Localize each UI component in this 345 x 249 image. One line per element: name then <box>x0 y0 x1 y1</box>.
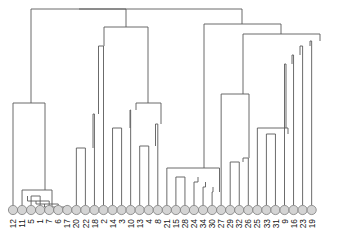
leaf-node-6[interactable] <box>54 205 63 214</box>
leaf-node-18[interactable] <box>90 205 99 214</box>
dendrogram-link-m33 <box>79 9 242 24</box>
dendrogram-canvas: 1211517617202218214310134821152824343027… <box>0 0 345 249</box>
leaf-node-10[interactable] <box>126 205 135 214</box>
leaf-node-15[interactable] <box>171 205 180 214</box>
dendrogram-link-m29 <box>300 46 303 205</box>
dendrogram-link-m22 <box>230 162 239 205</box>
dendrogram-link-m27 <box>285 64 287 205</box>
leaf-node-20[interactable] <box>72 205 81 214</box>
dendrogram-link-m24 <box>221 94 249 205</box>
dendrogram-link-m32 <box>204 24 281 168</box>
dendrogram-link-m23 <box>243 158 248 205</box>
leaf-node-30[interactable] <box>208 205 217 214</box>
leaf-node-19[interactable] <box>307 205 316 214</box>
dendrogram-link-m31 <box>243 34 320 94</box>
leaf-node-29[interactable] <box>226 205 235 214</box>
leaf-node-34[interactable] <box>198 205 207 214</box>
leaf-node-11[interactable] <box>17 205 26 214</box>
dendrogram-leaf-nodes <box>8 205 316 214</box>
leaf-node-3[interactable] <box>117 205 126 214</box>
leaf-node-8[interactable] <box>153 205 162 214</box>
dendrogram-link-m9 <box>99 46 104 205</box>
leaf-node-27[interactable] <box>217 205 226 214</box>
dendrogram-link-m14 <box>136 103 161 124</box>
leaf-node-17[interactable] <box>63 205 72 214</box>
leaf-node-32[interactable] <box>235 205 244 214</box>
dendrogram-link-m10 <box>113 128 122 205</box>
leaf-node-22[interactable] <box>81 205 90 214</box>
leaf-node-31[interactable] <box>271 205 280 214</box>
dendrogram-link-m20 <box>212 187 213 205</box>
leaf-node-26[interactable] <box>244 205 253 214</box>
dendrogram-link-m11 <box>130 110 131 205</box>
leaf-node-5[interactable] <box>27 205 36 214</box>
leaf-node-14[interactable] <box>108 205 117 214</box>
dendrogram-link-m15 <box>104 27 148 103</box>
leaf-node-12[interactable] <box>8 205 17 214</box>
leaf-node-4[interactable] <box>144 205 153 214</box>
dendrogram-links <box>13 9 320 207</box>
dendrogram-link-m30 <box>310 41 312 205</box>
leaf-node-16[interactable] <box>289 205 298 214</box>
dendrogram-link-m25 <box>266 134 275 205</box>
dendrogram-link-m3 <box>36 201 58 205</box>
dendrogram-link-m19 <box>203 182 205 205</box>
leaf-node-28[interactable] <box>180 205 189 214</box>
leaf-node-9[interactable] <box>280 205 289 214</box>
leaf-label-19: 19 <box>307 219 317 229</box>
leaf-node-7[interactable] <box>45 205 54 214</box>
leaf-node-13[interactable] <box>135 205 144 214</box>
dendrogram-link-m26 <box>257 128 288 205</box>
dendrogram-leaf-labels: 1211517617202218214310134821152824343027… <box>8 219 317 229</box>
leaf-node-25[interactable] <box>253 205 262 214</box>
leaf-node-21[interactable] <box>162 205 171 214</box>
dendrogram-link-m13 <box>156 124 158 205</box>
dendrogram-link-m7 <box>76 148 85 205</box>
dendrogram-link-m28 <box>292 55 294 205</box>
dendrogram-link-m17 <box>176 177 185 205</box>
leaf-node-23[interactable] <box>298 205 307 214</box>
leaf-node-1[interactable] <box>36 205 45 214</box>
dendrogram-figure: 1211517617202218214310134821152824343027… <box>0 0 345 249</box>
leaf-node-24[interactable] <box>189 205 198 214</box>
dendrogram-link-m16 <box>31 9 126 103</box>
dendrogram-link-m18 <box>194 177 198 205</box>
leaf-node-33[interactable] <box>262 205 271 214</box>
dendrogram-link-m8 <box>93 114 94 205</box>
dendrogram-link-m21 <box>167 168 220 205</box>
leaf-node-2[interactable] <box>99 205 108 214</box>
dendrogram-link-m12 <box>140 146 149 205</box>
